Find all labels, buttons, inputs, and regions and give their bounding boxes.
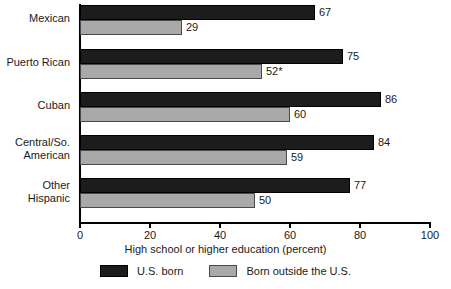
x-tick-0 — [79, 223, 81, 228]
bar-foreign-born-cuban — [80, 107, 290, 122]
bar-us-born-central-so-american — [80, 135, 374, 150]
bar-value-foreign-born-other-hispanic: 50 — [259, 193, 271, 208]
x-tick-label-40: 40 — [200, 229, 240, 242]
bar-value-us-born-other-hispanic: 77 — [354, 178, 366, 193]
x-tick-80 — [359, 223, 361, 228]
x-tick-label-60: 60 — [270, 229, 310, 242]
chart-legend: U.S. born Born outside the U.S. — [0, 265, 451, 277]
bar-value-foreign-born-central-so-american: 59 — [291, 150, 303, 165]
plot-area: 67 29 75 52* 86 60 84 59 77 50 — [80, 4, 430, 222]
legend-label-foreign-born: Born outside the U.S. — [246, 265, 351, 277]
bar-foreign-born-mexican — [80, 20, 182, 35]
category-label-other-hispanic: Other Hispanic — [28, 179, 70, 204]
bar-value-us-born-central-so-american: 84 — [378, 135, 390, 150]
bar-value-us-born-mexican: 67 — [319, 5, 331, 20]
bar-us-born-cuban — [80, 92, 381, 107]
legend-item-foreign-born: Born outside the U.S. — [209, 265, 351, 277]
bar-us-born-puerto-rican — [80, 49, 343, 64]
legend-item-us-born: U.S. born — [100, 265, 183, 277]
x-tick-100 — [429, 223, 431, 228]
category-label-cuban: Cuban — [38, 99, 70, 112]
x-tick-label-80: 80 — [340, 229, 380, 242]
bar-value-foreign-born-puerto-rican: 52* — [266, 64, 283, 79]
x-tick-label-20: 20 — [130, 229, 170, 242]
x-tick-40 — [219, 223, 221, 228]
gray-swatch-icon — [209, 265, 237, 277]
legend-label-us-born: U.S. born — [137, 265, 183, 277]
bar-value-us-born-cuban: 86 — [385, 92, 397, 107]
bar-us-born-mexican — [80, 5, 315, 20]
category-label-mexican: Mexican — [29, 12, 70, 25]
x-tick-label-100: 100 — [410, 229, 450, 242]
category-label-puerto-rican: Puerto Rican — [6, 56, 70, 69]
category-label-central-so-american: Central/So. American — [15, 136, 70, 161]
bar-foreign-born-puerto-rican — [80, 64, 262, 79]
bar-value-foreign-born-mexican: 29 — [186, 20, 198, 35]
x-tick-20 — [149, 223, 151, 228]
black-swatch-icon — [100, 265, 128, 277]
bar-value-foreign-born-cuban: 60 — [294, 107, 306, 122]
x-tick-label-0: 0 — [60, 229, 100, 242]
bar-foreign-born-central-so-american — [80, 150, 287, 165]
bar-chart: Mexican Puerto Rican Cuban Central/So. A… — [0, 0, 451, 289]
x-axis-title: High school or higher education (percent… — [0, 243, 451, 255]
bar-us-born-other-hispanic — [80, 178, 350, 193]
x-axis-line — [79, 222, 431, 224]
x-tick-60 — [289, 223, 291, 228]
bar-foreign-born-other-hispanic — [80, 193, 255, 208]
bar-value-us-born-puerto-rican: 75 — [347, 49, 359, 64]
